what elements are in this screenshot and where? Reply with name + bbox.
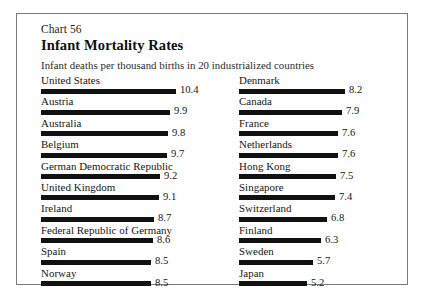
bar-category-label: Norway <box>41 267 76 280</box>
chart-bar-row: Sweden5.7 <box>239 245 401 266</box>
bar-value-label: 8.2 <box>349 84 362 96</box>
bar-category-label: Austria <box>41 95 73 108</box>
bar-track: 8.2 <box>239 88 401 95</box>
bar <box>239 153 338 158</box>
bar-category-label: Ireland <box>41 202 72 215</box>
bar-track: 6.8 <box>239 216 401 223</box>
bar-value-label: 6.8 <box>331 212 344 224</box>
bar-value-label: 9.9 <box>174 105 187 117</box>
bar-track: 7.6 <box>239 130 401 137</box>
bar <box>41 89 176 94</box>
bar-category-label: Japan <box>239 267 264 280</box>
bar-category-label: Canada <box>239 95 272 108</box>
bar <box>239 110 342 115</box>
bar <box>239 217 327 222</box>
bar <box>41 195 159 200</box>
bar-value-label: 7.4 <box>339 191 352 203</box>
chart-bar-row: Singapore7.4 <box>239 181 401 202</box>
bar-track: 7.9 <box>239 109 401 116</box>
bar-track: 8.5 <box>41 280 206 287</box>
chart-bar-row: Norway8.5 <box>41 267 206 288</box>
bar <box>41 174 160 179</box>
bar-track: 9.2 <box>41 173 206 180</box>
bar-value-label: 6.3 <box>325 234 338 246</box>
chart-bar-row: United States10.4 <box>41 74 206 95</box>
chart-bar-row: Spain8.5 <box>41 245 206 266</box>
bar-track: 9.7 <box>41 152 206 159</box>
bar-value-label: 7.5 <box>340 170 353 182</box>
bar-category-label: Switzerland <box>239 202 292 215</box>
chart-bar-row: France7.6 <box>239 117 401 138</box>
bar-track: 8.7 <box>41 216 206 223</box>
bar-category-label: Denmark <box>239 74 280 87</box>
bar-category-label: Sweden <box>239 245 274 258</box>
bar-track: 9.8 <box>41 130 206 137</box>
chart-bar-row: Austria9.9 <box>41 95 206 116</box>
chart-plot-area: United States10.4Austria9.9Australia9.8B… <box>17 74 407 288</box>
bar-value-label: 9.7 <box>171 148 184 160</box>
chart-number-label: Chart 56 <box>41 22 397 36</box>
chart-header: Chart 56 Infant Mortality Rates Infant d… <box>41 22 397 72</box>
bar-track: 9.1 <box>41 194 206 201</box>
bar <box>239 195 335 200</box>
bar-category-label: United Kingdom <box>41 181 115 194</box>
bar-track: 5.2 <box>239 280 401 287</box>
bar <box>239 281 307 286</box>
bar-value-label: 8.6 <box>157 234 170 246</box>
bar-value-label: 7.9 <box>346 105 359 117</box>
bar <box>41 153 167 158</box>
bar-track: 6.3 <box>239 237 401 244</box>
chart-title: Infant Mortality Rates <box>41 37 397 54</box>
bar-category-label: Spain <box>41 245 66 258</box>
bar-value-label: 7.6 <box>342 127 355 139</box>
bar-category-label: Australia <box>41 117 81 130</box>
chart-subtitle: Infant deaths per thousand births in 20 … <box>41 58 397 72</box>
chart-bar-row: Australia9.8 <box>41 117 206 138</box>
bar-category-label: German Democratic Republic <box>41 160 173 173</box>
bar-value-label: 8.7 <box>158 212 171 224</box>
bar-category-label: Belgium <box>41 138 79 151</box>
bar <box>239 174 336 179</box>
bar <box>239 89 345 94</box>
chart-bar-row: Canada7.9 <box>239 95 401 116</box>
chart-frame: Chart 56 Infant Mortality Rates Infant d… <box>16 13 408 285</box>
bar-category-label: Finland <box>239 224 273 237</box>
chart-bar-row: Federal Republic of Germany8.6 <box>41 224 206 245</box>
bar-value-label: 5.2 <box>311 277 324 289</box>
bar-value-label: 7.6 <box>342 148 355 160</box>
bar-track: 8.5 <box>41 259 206 266</box>
bar-value-label: 10.4 <box>180 84 199 96</box>
bar-track: 8.6 <box>41 237 206 244</box>
bar-category-label: Federal Republic of Germany <box>41 224 172 237</box>
bar-track: 7.5 <box>239 173 401 180</box>
bar-value-label: 9.8 <box>172 127 185 139</box>
bar-category-label: France <box>239 117 269 130</box>
bar-track: 7.4 <box>239 194 401 201</box>
chart-bar-row: Belgium9.7 <box>41 138 206 159</box>
chart-bar-row: Switzerland6.8 <box>239 202 401 223</box>
bar <box>239 238 321 243</box>
bar <box>239 260 313 265</box>
chart-bar-row: United Kingdom9.1 <box>41 181 206 202</box>
bar <box>41 110 170 115</box>
bar <box>41 217 154 222</box>
chart-bar-row: German Democratic Republic9.2 <box>41 160 206 181</box>
bar-track: 7.6 <box>239 152 401 159</box>
chart-column-left: United States10.4Austria9.9Australia9.8B… <box>17 74 212 288</box>
bar-category-label: Netherlands <box>239 138 292 151</box>
bar-value-label: 5.7 <box>317 255 330 267</box>
bar <box>41 260 151 265</box>
chart-bar-row: Finland6.3 <box>239 224 401 245</box>
bar-track: 9.9 <box>41 109 206 116</box>
bar-track: 5.7 <box>239 259 401 266</box>
bar-category-label: Hong Kong <box>239 160 291 173</box>
bar-value-label: 9.2 <box>164 170 177 182</box>
bar-value-label: 9.1 <box>163 191 176 203</box>
bar-category-label: United States <box>41 74 100 87</box>
bar <box>41 281 151 286</box>
bar-value-label: 8.5 <box>155 277 168 289</box>
bar-track: 10.4 <box>41 88 206 95</box>
bar <box>41 238 153 243</box>
chart-bar-row: Netherlands7.6 <box>239 138 401 159</box>
bar <box>239 131 338 136</box>
